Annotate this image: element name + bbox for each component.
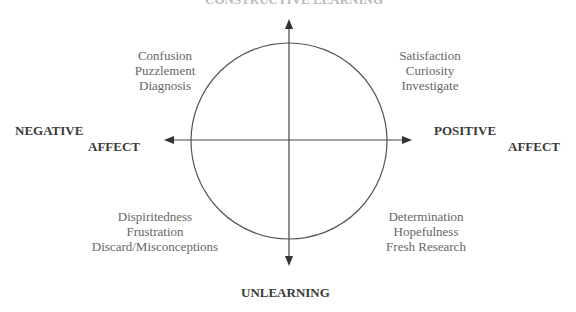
quadrant-item: Hopefulness [366,224,486,239]
quadrant-item: Frustration [80,224,230,239]
axis-right-label-line1: POSITIVE [434,123,496,138]
axis-top-label: CONSTRUCTIVE LEARNING [205,0,383,7]
quadrant-top-left: Confusion Puzzlement Diagnosis [115,48,215,93]
quadrant-diagram [0,0,576,312]
arrow-left-icon [164,136,174,144]
quadrant-item: Confusion [115,48,215,63]
quadrant-top-right: Satisfaction Curiosity Investigate [375,48,485,93]
arrow-down-icon [285,256,293,266]
quadrant-bottom-left: Dispiritedness Frustration Discard/Misco… [80,209,230,254]
arrow-right-icon [402,136,412,144]
quadrant-item: Determination [366,209,486,224]
quadrant-item: Diagnosis [115,78,215,93]
quadrant-item: Discard/Misconceptions [80,239,230,254]
quadrant-item: Curiosity [375,63,485,78]
quadrant-item: Puzzlement [115,63,215,78]
quadrant-item: Satisfaction [375,48,485,63]
axis-left-label-line1: NEGATIVE [15,123,83,138]
axis-right-label-line2: AFFECT [508,139,560,154]
quadrant-item: Investigate [375,78,485,93]
quadrant-item: Dispiritedness [80,209,230,224]
quadrant-bottom-right: Determination Hopefulness Fresh Research [366,209,486,254]
axis-left-label-line2: AFFECT [88,139,140,154]
axis-bottom-label: UNLEARNING [241,285,330,300]
arrow-up-icon [285,19,293,29]
quadrant-item: Fresh Research [366,239,486,254]
